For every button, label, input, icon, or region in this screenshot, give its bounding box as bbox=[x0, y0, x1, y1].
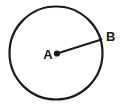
diagram-background bbox=[0, 0, 122, 107]
label-b: B bbox=[106, 29, 115, 44]
label-a: A bbox=[43, 47, 53, 62]
circle-diagram: A B bbox=[0, 0, 122, 107]
geometry-canvas: A B bbox=[0, 0, 122, 107]
center-point-a bbox=[54, 50, 60, 56]
